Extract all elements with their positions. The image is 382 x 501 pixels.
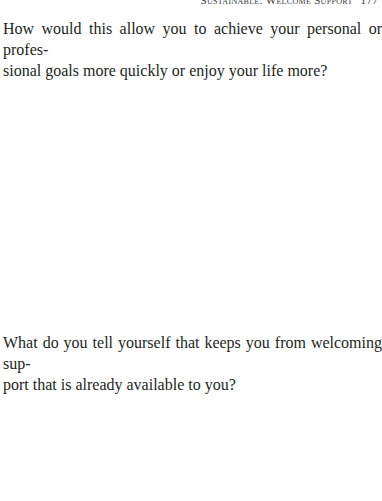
answer-space-2	[3, 378, 379, 498]
running-head-title: Sustainable: Welcome Support	[201, 0, 353, 6]
question-line: What do you tell yourself that keeps you…	[3, 332, 382, 374]
running-head: Sustainable: Welcome Support177	[201, 0, 378, 6]
question-line: How would this allow you to achieve your…	[3, 18, 382, 60]
answer-space-1	[3, 64, 379, 322]
page-number: 177	[361, 0, 378, 6]
